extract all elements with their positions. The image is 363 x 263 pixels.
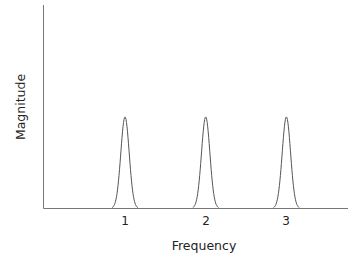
peak-3 [273,117,299,208]
y-axis-label: Magnitude [13,74,28,140]
peak-2 [193,117,219,208]
peaks-group [112,117,299,208]
x-tick-3: 3 [282,214,290,228]
x-tick-2: 2 [202,214,210,228]
spectrum-chart [0,0,363,263]
x-axis-label: Frequency [172,238,237,253]
x-tick-1: 1 [121,214,129,228]
peak-1 [112,117,138,208]
